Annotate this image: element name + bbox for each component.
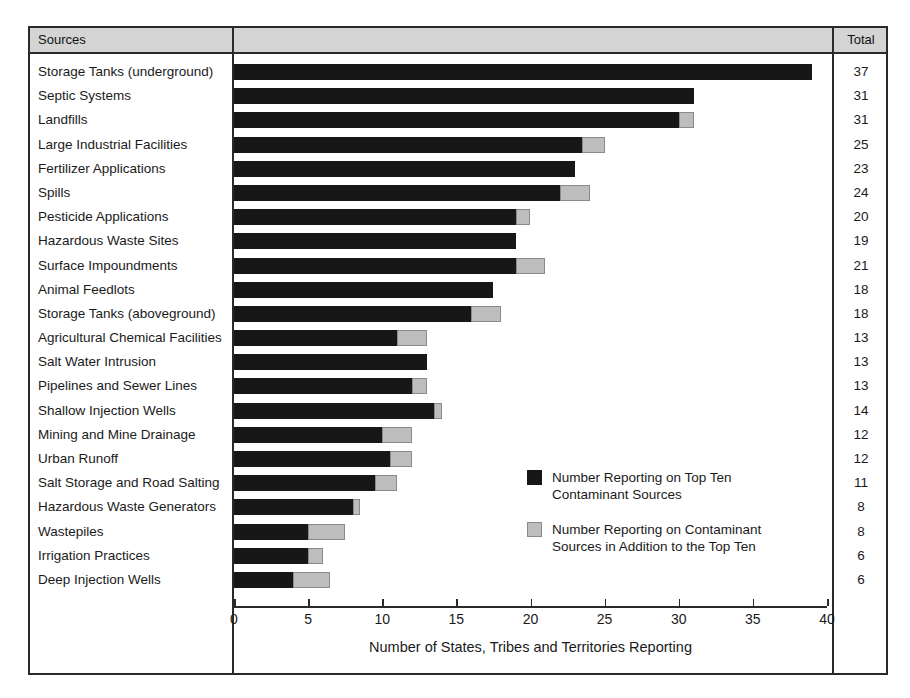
bar-row-total: 12	[834, 447, 888, 471]
x-axis-tick-label: 35	[745, 611, 761, 627]
column-header-total: Total	[832, 28, 888, 52]
stacked-bar	[234, 161, 575, 177]
bar-track	[234, 278, 832, 302]
stacked-bar	[234, 427, 412, 443]
bar-track	[234, 60, 832, 84]
bar-row-label: Landfills	[38, 108, 230, 132]
bar-row-total: 12	[834, 423, 888, 447]
bar-segment-top-ten	[234, 378, 412, 394]
bar-track	[234, 84, 832, 108]
stacked-bar	[234, 354, 427, 370]
bar-segment-additional	[560, 185, 590, 201]
bar-row-label: Hazardous Waste Sites	[38, 229, 230, 253]
bar-row-label: Pipelines and Sewer Lines	[38, 374, 230, 398]
bar-row-label: Salt Storage and Road Salting	[38, 471, 230, 495]
bar-track	[234, 399, 832, 423]
bar-segment-top-ten	[234, 233, 516, 249]
stacked-bar	[234, 112, 694, 128]
bar-track	[234, 374, 832, 398]
bar-segment-additional	[353, 499, 360, 515]
x-axis-tick	[308, 599, 310, 606]
x-axis-tick	[531, 599, 533, 606]
bar-row: Landfills31	[30, 108, 886, 132]
bar-row-total: 18	[834, 278, 888, 302]
bar-segment-top-ten	[234, 161, 575, 177]
bar-row-label: Irrigation Practices	[38, 544, 230, 568]
chart-figure-frame: Sources Total Storage Tanks (underground…	[28, 26, 888, 675]
bar-row: Urban Runoff12	[30, 447, 886, 471]
x-axis-tick-label: 10	[374, 611, 390, 627]
bar-segment-top-ten	[234, 209, 516, 225]
stacked-bar	[234, 209, 531, 225]
bar-segment-additional	[434, 403, 441, 419]
bar-row-label: Wastepiles	[38, 520, 230, 544]
column-header-sources: Sources	[30, 28, 232, 52]
bar-row-total: 8	[834, 520, 888, 544]
bar-segment-top-ten	[234, 64, 812, 80]
bar-row-total: 31	[834, 84, 888, 108]
bar-row-label: Deep Injection Wells	[38, 568, 230, 592]
x-axis-tick	[456, 599, 458, 606]
bar-segment-top-ten	[234, 354, 427, 370]
legend-swatch-top-ten	[527, 470, 542, 485]
bar-row-label: Mining and Mine Drainage	[38, 423, 230, 447]
bar-track	[234, 229, 832, 253]
bar-row-total: 13	[834, 350, 888, 374]
bar-row-total: 13	[834, 374, 888, 398]
bar-row: Storage Tanks (underground)37	[30, 60, 886, 84]
chart-content: Storage Tanks (underground)37Septic Syst…	[30, 54, 886, 673]
bar-track	[234, 205, 832, 229]
bar-row-total: 6	[834, 568, 888, 592]
x-axis-tick	[753, 599, 755, 606]
stacked-bar	[234, 378, 427, 394]
bar-row: Mining and Mine Drainage12	[30, 423, 886, 447]
bar-track	[234, 254, 832, 278]
legend-label: Number Reporting on ContaminantSources i…	[552, 521, 761, 555]
x-axis-tick-label: 0	[230, 611, 238, 627]
bar-segment-top-ten	[234, 403, 434, 419]
bar-row-label: Hazardous Waste Generators	[38, 495, 230, 519]
bar-row: Storage Tanks (aboveground)18	[30, 302, 886, 326]
bar-segment-additional	[293, 572, 330, 588]
x-axis-tick-label: 5	[304, 611, 312, 627]
legend-label-line: Sources in Addition to the Top Ten	[552, 538, 761, 555]
bar-row-total: 24	[834, 181, 888, 205]
bar-track	[234, 181, 832, 205]
bar-row: Fertilizer Applications23	[30, 157, 886, 181]
bar-row-label: Animal Feedlots	[38, 278, 230, 302]
bar-row-label: Salt Water Intrusion	[38, 350, 230, 374]
table-header-band: Sources Total	[30, 28, 886, 54]
bar-segment-additional	[390, 451, 412, 467]
bar-segment-additional	[679, 112, 694, 128]
x-axis-line	[234, 606, 827, 608]
bar-segment-top-ten	[234, 306, 471, 322]
bar-row-total: 25	[834, 133, 888, 157]
bar-row: Agricultural Chemical Facilities13	[30, 326, 886, 350]
bar-track	[234, 108, 832, 132]
stacked-bar	[234, 330, 427, 346]
stacked-bar	[234, 233, 516, 249]
bar-row: Large Industrial Facilities25	[30, 133, 886, 157]
bar-row: Spills24	[30, 181, 886, 205]
bar-segment-additional	[397, 330, 427, 346]
stacked-bar	[234, 403, 442, 419]
bar-segment-top-ten	[234, 330, 397, 346]
bar-segment-additional	[582, 137, 604, 153]
stacked-bar	[234, 137, 605, 153]
x-axis-tick-label: 15	[449, 611, 465, 627]
bar-segment-additional	[308, 548, 323, 564]
bar-track	[234, 350, 832, 374]
stacked-bar	[234, 572, 330, 588]
stacked-bar	[234, 475, 397, 491]
stacked-bar	[234, 548, 323, 564]
stacked-bar	[234, 499, 360, 515]
bar-row-total: 21	[834, 254, 888, 278]
bar-row-label: Urban Runoff	[38, 447, 230, 471]
stacked-bar	[234, 64, 812, 80]
bar-row-total: 23	[834, 157, 888, 181]
bar-segment-top-ten	[234, 548, 308, 564]
stacked-bar	[234, 451, 412, 467]
x-axis-title: Number of States, Tribes and Territories…	[234, 639, 827, 655]
x-axis-tick	[679, 599, 681, 606]
bar-segment-top-ten	[234, 185, 560, 201]
